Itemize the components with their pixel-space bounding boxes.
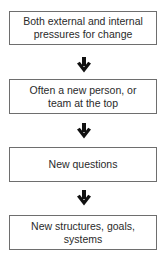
step-box-new-person-or-team: Often a new person, or team at the top xyxy=(9,79,157,114)
down-arrow-icon xyxy=(76,123,92,139)
step-box-external-internal-pressures: Both external and internal pressures for… xyxy=(9,11,157,45)
step-label: New structures, goals, systems xyxy=(18,220,148,246)
step-box-new-questions: New questions xyxy=(9,147,157,182)
step-box-new-structures-goals-systems: New structures, goals, systems xyxy=(9,215,157,250)
step-label: New questions xyxy=(49,158,118,171)
down-arrow-icon xyxy=(76,57,92,73)
step-label: Both external and internal pressures for… xyxy=(18,15,148,41)
down-arrow-icon xyxy=(76,190,92,206)
step-label: Often a new person, or team at the top xyxy=(18,84,148,110)
